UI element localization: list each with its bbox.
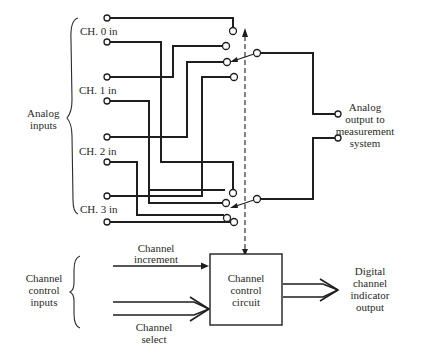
switch-contact bbox=[230, 190, 237, 197]
input-terminal bbox=[104, 98, 110, 104]
switch-contact bbox=[231, 219, 238, 226]
switch-wiper-lower-arrowhead bbox=[230, 203, 238, 208]
analog-inputs-label-line1: Analog bbox=[27, 107, 60, 119]
switch-contact bbox=[231, 74, 238, 81]
channel-select-label-line2: select bbox=[141, 333, 166, 345]
channel-select-label-line1: Channel bbox=[136, 321, 173, 333]
switch-wiper-upper-arrowhead bbox=[230, 57, 238, 62]
output-terminal-upper bbox=[335, 111, 341, 117]
analog-output-label-line2: output to bbox=[345, 113, 385, 125]
channel-control-label-line3: inputs bbox=[31, 296, 58, 308]
channel-control-label-line2: control bbox=[28, 284, 59, 296]
wire-ch2-b bbox=[110, 162, 224, 215]
switch-contact bbox=[224, 215, 231, 222]
output-wire-upper bbox=[260, 53, 335, 114]
channel-1-label: CH. 1 in bbox=[79, 84, 117, 96]
control-link-up-arrow bbox=[242, 28, 248, 37]
input-terminal bbox=[104, 219, 110, 225]
channel-control-label-line1: Channel bbox=[26, 272, 63, 284]
control-block-label-line3: circuit bbox=[232, 296, 260, 308]
wire-ch0-b bbox=[110, 42, 233, 190]
channel-2-label: CH. 2 in bbox=[79, 145, 117, 157]
wire-ch0-a bbox=[110, 18, 233, 31]
channel-control-brace bbox=[70, 256, 80, 328]
channel-3-label: CH. 3 in bbox=[80, 203, 118, 215]
channel-select-bus-head bbox=[190, 297, 209, 321]
channel-select-bus-upper bbox=[113, 302, 209, 309]
channel-0-label: CH. 0 in bbox=[80, 25, 118, 37]
input-terminal bbox=[104, 39, 110, 45]
digital-output-label-line3: indicator bbox=[350, 289, 389, 301]
switch-contact bbox=[224, 59, 231, 66]
input-terminal bbox=[104, 15, 110, 21]
analog-output-label-line4: system bbox=[350, 137, 381, 149]
output-wire-lower bbox=[260, 138, 335, 199]
digital-output-label-line1: Digital bbox=[355, 265, 386, 277]
wiper-pivot-lower bbox=[254, 196, 261, 203]
input-terminal bbox=[104, 134, 110, 140]
analog-inputs-brace bbox=[67, 18, 78, 214]
wiper-pivot-upper bbox=[254, 50, 261, 57]
input-terminal bbox=[104, 193, 110, 199]
switch-contact bbox=[223, 200, 230, 207]
channel-increment-arrowhead bbox=[201, 263, 209, 270]
analog-inputs-label-line2: inputs bbox=[30, 119, 57, 131]
switch-contact bbox=[230, 28, 237, 35]
digital-output-label-line2: channel bbox=[353, 277, 387, 289]
channel-increment-label-line2: increment bbox=[134, 253, 178, 265]
multiplexer-diagram: Analog inputs CH. 0 in CH. 1 in CH. 2 in… bbox=[0, 0, 432, 361]
analog-output-label-line1: Analog bbox=[349, 101, 382, 113]
control-block-label-line2: control bbox=[230, 284, 261, 296]
wire-ch1-b bbox=[110, 101, 225, 190]
switch-contacts bbox=[223, 28, 238, 226]
input-terminal bbox=[104, 159, 110, 165]
digital-output-label-line4: output bbox=[356, 301, 384, 313]
input-terminals bbox=[104, 15, 110, 225]
channel-select-bus-lower bbox=[113, 309, 209, 315]
input-terminal bbox=[104, 74, 110, 80]
switch-contact bbox=[223, 43, 230, 50]
analog-output-label-line3: measurement bbox=[336, 125, 395, 137]
control-block-label-line1: Channel bbox=[228, 272, 265, 284]
wire-ch2-a bbox=[110, 62, 223, 137]
